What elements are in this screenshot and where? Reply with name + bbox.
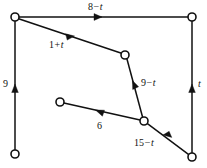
edge-label-fifteen-operator: − bbox=[144, 137, 151, 148]
node-mid-left[interactable] bbox=[56, 98, 64, 106]
edge-label-top-variable: t bbox=[100, 1, 103, 12]
edge-label-diagonal-upper-variable: t bbox=[61, 39, 64, 50]
edge-label-diagonal-upper: 1+t bbox=[49, 40, 64, 50]
edge-label-junction-to-mid-upper: 9−t bbox=[141, 78, 156, 88]
edge-label-diagonal-upper-operator: + bbox=[54, 39, 61, 50]
node-junction[interactable] bbox=[140, 117, 148, 125]
node-mid-upper[interactable] bbox=[121, 51, 129, 59]
edge-label-six-number: 6 bbox=[97, 120, 102, 131]
node-top-right[interactable] bbox=[188, 13, 196, 21]
edge-label-left-vertical-number: 9 bbox=[3, 78, 8, 89]
edge-label-right-vertical: t bbox=[198, 79, 201, 89]
edge-label-junction-operator: − bbox=[146, 77, 153, 88]
edge-label-junction-variable: t bbox=[153, 77, 156, 88]
edge-label-fifteen-number: 15 bbox=[134, 137, 144, 148]
edge-label-top-operator: − bbox=[93, 1, 100, 12]
arrow-head-left-vertical bbox=[12, 84, 19, 93]
arrow-head-junction-to-mid-upper bbox=[132, 81, 138, 90]
arrow-head-right-vertical bbox=[189, 84, 196, 93]
arrow-head-six bbox=[96, 110, 105, 116]
edge-label-fifteen-variable: t bbox=[151, 137, 154, 148]
edge-label-right-vertical-variable: t bbox=[198, 78, 201, 89]
edge-label-fifteen: 15−t bbox=[134, 138, 154, 148]
arrow-head-diagonal-upper bbox=[66, 34, 75, 40]
node-top-left[interactable] bbox=[11, 13, 19, 21]
network-diagram-canvas bbox=[0, 0, 207, 168]
arrow-head-top-right bbox=[94, 14, 102, 21]
edge-label-six: 6 bbox=[97, 121, 102, 131]
node-bottom-left[interactable] bbox=[11, 150, 19, 158]
edge-label-left-vertical: 9 bbox=[3, 79, 8, 89]
node-bottom-right[interactable] bbox=[188, 153, 196, 161]
edge-label-top: 8−t bbox=[88, 2, 103, 12]
network-flow-figure: 8−t 1+t 9 t 9−t 6 15−t bbox=[0, 0, 207, 168]
